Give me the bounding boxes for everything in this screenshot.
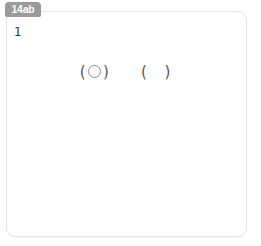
paren-open-right: ( [141,63,147,81]
answer-slot-right[interactable]: () [109,42,170,102]
answer-parentheses-row: () () [27,22,171,122]
paren-open-left: ( [80,63,86,81]
circle-icon [88,65,101,78]
answer-slot-left[interactable]: () [48,42,109,102]
exercise-item-1: 1 () () [10,22,130,42]
paren-close-right: ) [164,63,170,81]
blank-answer-slot[interactable] [149,67,162,78]
worksheet-tab[interactable]: 14ab [5,2,41,17]
exercise-number-1: 1 [14,26,22,38]
